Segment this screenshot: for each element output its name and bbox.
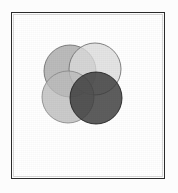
venn-diagram: [11, 12, 165, 179]
venn-canvas: [11, 12, 165, 179]
figure-root: [0, 0, 178, 193]
venn-circle-bottom-right: [70, 72, 122, 124]
venn-circle-group: [42, 43, 122, 124]
